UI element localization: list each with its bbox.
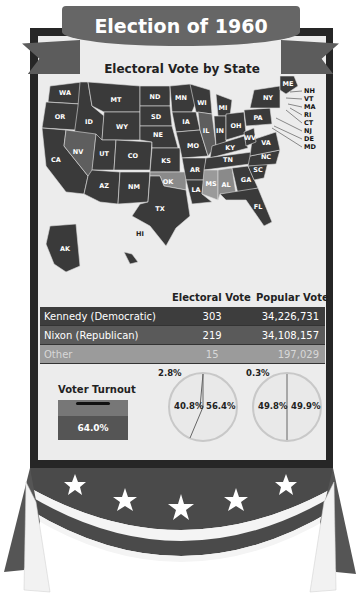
- popular-vote-header: Popular Vote: [256, 292, 329, 303]
- popular-value: 34,108,157: [232, 330, 325, 341]
- svg-text:OR: OR: [55, 113, 66, 121]
- svg-text:IL: IL: [203, 127, 210, 135]
- turnout-value: 64.0%: [58, 416, 128, 440]
- svg-text:KS: KS: [161, 157, 171, 165]
- svg-text:UT: UT: [99, 150, 109, 158]
- svg-text:CO: CO: [128, 152, 139, 160]
- table-row: Nixon (Republican) 219 34,108,157: [40, 326, 325, 345]
- svg-text:NC: NC: [261, 153, 271, 161]
- svg-text:CA: CA: [51, 156, 61, 164]
- svg-text:MA: MA: [304, 103, 316, 111]
- svg-text:ID: ID: [85, 118, 93, 126]
- svg-text:TX: TX: [155, 205, 164, 213]
- svg-text:WV: WV: [244, 134, 256, 142]
- svg-text:KY: KY: [225, 144, 235, 152]
- svg-text:NY: NY: [263, 94, 273, 102]
- svg-text:NV: NV: [73, 148, 83, 156]
- svg-text:AR: AR: [190, 166, 200, 174]
- electoral-value: 15: [192, 349, 232, 360]
- svg-text:LA: LA: [191, 186, 200, 194]
- svg-text:NH: NH: [304, 87, 315, 95]
- electoral-other-pct: 2.8%: [158, 368, 182, 378]
- svg-text:MT: MT: [111, 96, 122, 104]
- svg-text:TN: TN: [223, 156, 233, 164]
- svg-text:NJ: NJ: [304, 127, 312, 135]
- svg-text:CT: CT: [304, 119, 314, 127]
- svg-text:VT: VT: [304, 95, 314, 103]
- svg-text:MN: MN: [175, 94, 187, 102]
- svg-text:WY: WY: [116, 123, 128, 131]
- state-hi: [124, 252, 138, 264]
- svg-text:IA: IA: [182, 118, 189, 126]
- svg-text:NE: NE: [153, 131, 163, 139]
- svg-text:MS: MS: [205, 180, 216, 188]
- popular-nixon-pct: 49.8%: [258, 401, 288, 411]
- svg-text:MI: MI: [219, 104, 228, 112]
- table-row: Other 15 197,029: [40, 345, 325, 364]
- svg-text:MD: MD: [304, 143, 316, 151]
- electoral-vote-header: Electoral Vote: [172, 292, 251, 303]
- voter-turnout-title: Voter Turnout: [58, 384, 136, 395]
- ballot-box-icon: 64.0%: [58, 400, 128, 440]
- table-row: Kennedy (Democratic) 303 34,226,731: [40, 307, 325, 326]
- svg-text:AZ: AZ: [99, 182, 109, 190]
- page-title: Election of 1960: [94, 15, 267, 37]
- svg-text:AK: AK: [60, 245, 71, 253]
- svg-text:WA: WA: [59, 89, 71, 97]
- svg-text:VA: VA: [261, 139, 271, 147]
- svg-text:RI: RI: [304, 111, 311, 119]
- svg-text:GA: GA: [241, 176, 251, 184]
- candidate-name: Nixon (Republican): [40, 330, 192, 341]
- title-ribbon: Election of 1960: [62, 6, 300, 46]
- svg-text:WI: WI: [197, 99, 207, 107]
- svg-text:NM: NM: [128, 183, 140, 191]
- svg-text:DE: DE: [304, 135, 314, 143]
- svg-text:OK: OK: [163, 178, 175, 186]
- svg-text:MO: MO: [187, 142, 199, 150]
- svg-text:IN: IN: [216, 127, 224, 135]
- svg-text:AL: AL: [221, 181, 230, 189]
- svg-text:SC: SC: [253, 166, 263, 174]
- us-electoral-map: WA OR CA ID NV MT WY UT AZ CO NM ND SD N…: [40, 76, 330, 286]
- electoral-value: 219: [192, 330, 232, 341]
- popular-other-pct: 0.3%: [246, 368, 270, 378]
- popular-value: 197,029: [232, 349, 325, 360]
- svg-text:ND: ND: [150, 93, 161, 101]
- patriotic-bunting: [0, 462, 361, 595]
- svg-text:SD: SD: [151, 113, 162, 121]
- candidate-name: Kennedy (Democratic): [40, 311, 192, 322]
- svg-text:OH: OH: [231, 122, 242, 130]
- electoral-kennedy-pct: 56.4%: [206, 401, 236, 411]
- svg-text:PA: PA: [253, 114, 262, 122]
- candidate-name: Other: [40, 349, 192, 360]
- map-title: Electoral Vote by State: [38, 62, 326, 76]
- electoral-value: 303: [192, 311, 232, 322]
- popular-kennedy-pct: 49.9%: [291, 401, 321, 411]
- svg-text:ME: ME: [283, 80, 294, 88]
- electoral-nixon-pct: 40.8%: [174, 401, 204, 411]
- svg-text:HI: HI: [136, 230, 144, 238]
- popular-value: 34,226,731: [232, 311, 325, 322]
- svg-text:FL: FL: [254, 203, 263, 211]
- state-fl: [220, 188, 272, 226]
